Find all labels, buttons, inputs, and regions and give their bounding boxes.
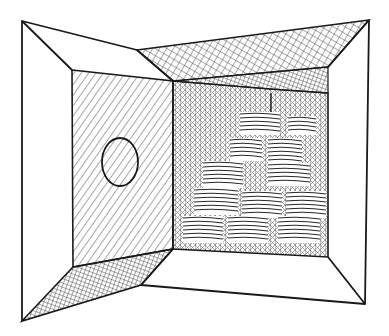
left-panel [72, 70, 173, 267]
plate-stack [230, 138, 262, 161]
plate-stack [268, 163, 310, 186]
ceiling-panel [137, 20, 369, 81]
box-illustration [0, 0, 389, 336]
plate-stack [240, 112, 280, 135]
